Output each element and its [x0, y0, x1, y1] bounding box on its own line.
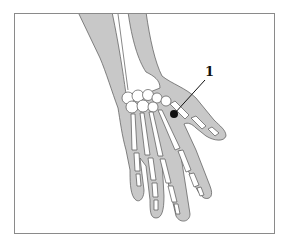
label-1: 1 — [205, 64, 214, 79]
hand-skeleton-illustration — [0, 0, 285, 240]
marker-point-1 — [170, 110, 178, 118]
